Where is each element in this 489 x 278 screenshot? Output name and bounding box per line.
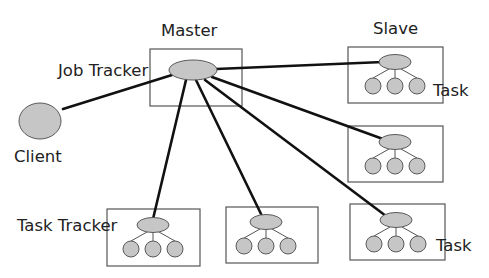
task-node [236, 238, 252, 254]
task-tracker-slave-4 [123, 218, 183, 258]
task-node [365, 78, 381, 94]
task-node [123, 241, 139, 257]
task-link [401, 149, 417, 158]
job-tracker-label: Job Tracker [57, 61, 148, 80]
edge-jobtracker-slave-5 [196, 80, 262, 216]
edge-jobtracker-slave-2 [212, 77, 383, 139]
client-label: Client [14, 147, 62, 166]
edge-jobtracker-slave-1 [216, 62, 383, 69]
task-link [374, 227, 390, 236]
task-node [409, 158, 425, 174]
task-node [410, 236, 426, 252]
task-node [365, 158, 381, 174]
edge-jobtracker-slave-4 [153, 80, 186, 219]
slave-label: Slave [373, 19, 418, 38]
task-link [401, 69, 417, 78]
task-node [409, 78, 425, 94]
task-link [131, 232, 147, 241]
edge-jobtracker-slave-3 [205, 80, 386, 216]
task-link [373, 69, 389, 78]
task-link [159, 232, 175, 241]
client-node [19, 103, 61, 139]
task-label-bottom: Task [435, 236, 472, 255]
task-node [387, 158, 403, 174]
task-tracker-slave-5 [236, 215, 296, 255]
task-node [388, 236, 404, 252]
task-node [280, 238, 296, 254]
task-tracker-node [250, 215, 282, 230]
hadoop-master-slave-diagram: Master Slave Job Tracker Client Task Tra… [0, 0, 489, 278]
task-node [258, 238, 274, 254]
task-tracker-node [379, 55, 411, 70]
task-tracker-node [137, 218, 169, 233]
task-tracker-slave-2 [365, 135, 425, 175]
edge-client-jobtracker [63, 75, 172, 109]
job-tracker-node [169, 60, 217, 80]
task-link [373, 149, 389, 158]
task-label-top: Task [432, 81, 469, 100]
master-label: Master [161, 21, 218, 40]
task-node [387, 78, 403, 94]
task-link [402, 227, 418, 236]
task-node [145, 241, 161, 257]
task-link [272, 229, 288, 238]
task-tracker-node [379, 135, 411, 150]
task-node [167, 241, 183, 257]
task-node [366, 236, 382, 252]
task-tracker-label: Task Tracker [16, 216, 118, 235]
task-tracker-slave-1 [365, 55, 425, 95]
task-tracker-node [380, 213, 412, 228]
task-tracker-slave-3 [366, 213, 426, 253]
task-link [244, 229, 260, 238]
edges [63, 62, 386, 219]
